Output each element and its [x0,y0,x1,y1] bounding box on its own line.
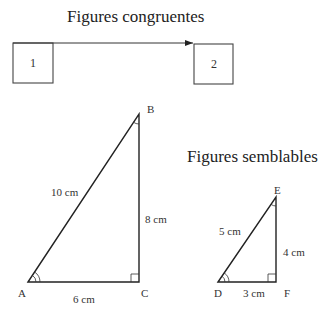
triangle-def [218,197,276,282]
right-angle-mark-c [131,274,139,282]
side-label-ef: 4 cm [283,246,305,258]
angle-mark-e [271,204,276,206]
vertex-label-b: B [147,103,154,115]
angle-mark-a-inner [32,275,36,282]
diagram-canvas: Figures congruentes 1 2 B A C 10 cm 8 cm… [0,0,319,317]
angle-mark-d-inner [222,276,225,282]
square-1-label: 1 [30,56,36,70]
vertex-label-a: A [18,287,26,299]
congruent-title: Figures congruentes [67,7,204,26]
side-label-de: 5 cm [219,225,241,237]
vertex-label-f: F [284,287,290,299]
side-label-ac: 6 cm [73,293,95,305]
angle-mark-b [134,122,140,124]
vertex-label-d: D [214,287,222,299]
angle-mark-a-outer [35,272,40,282]
square-2-label: 2 [211,57,217,71]
side-label-bc: 8 cm [145,213,167,225]
vertex-label-e: E [274,184,281,196]
right-angle-mark-f [268,274,276,282]
side-label-df: 3 cm [243,287,265,299]
vertex-label-c: C [141,287,148,299]
similar-title: Figures semblables [187,147,318,166]
side-label-ab: 10 cm [51,186,79,198]
triangle-abc [28,114,139,282]
